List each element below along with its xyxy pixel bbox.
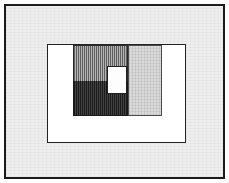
light-gray-block	[128, 45, 162, 116]
white-bottom-strip	[48, 116, 185, 142]
plot-rectangle	[47, 44, 186, 143]
outer-frame	[4, 4, 225, 179]
figure-root	[0, 0, 229, 183]
white-right-strip	[162, 45, 185, 116]
white-center-square	[107, 66, 127, 94]
